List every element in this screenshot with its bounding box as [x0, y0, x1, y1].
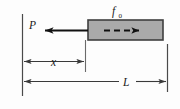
- label-friction: f 0: [112, 5, 123, 20]
- label-friction-text: f: [112, 5, 117, 18]
- label-distance-x: x: [50, 56, 57, 68]
- figure-canvas: f 0 P x L: [0, 0, 180, 109]
- mechanics-figure: f 0 P x L: [0, 0, 180, 109]
- label-length-L: L: [122, 76, 129, 88]
- label-applied-force: P: [28, 19, 36, 31]
- label-friction-subscript: 0: [119, 12, 123, 20]
